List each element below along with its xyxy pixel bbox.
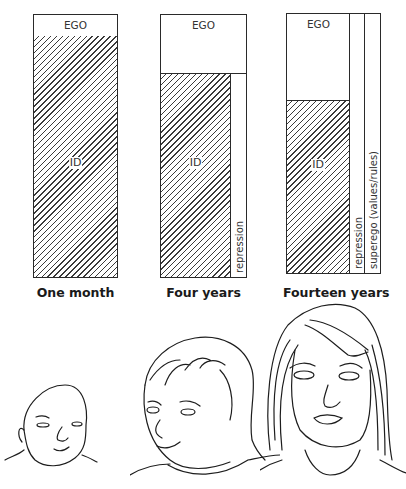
superego-column: superego (values/rules) xyxy=(364,14,381,273)
ego-label: EGO xyxy=(161,19,246,31)
ego-section: EGO xyxy=(161,15,246,74)
hair-outline-icon xyxy=(145,337,265,460)
ego-section: EGO xyxy=(34,15,117,37)
bar-four-years: EGO ID repression xyxy=(160,14,247,278)
repression-label: repression xyxy=(234,221,245,273)
bar-one-month: EGO ID xyxy=(33,14,118,278)
ego-label: EGO xyxy=(287,18,350,30)
ego-label: EGO xyxy=(34,19,117,31)
caption-one-month: One month xyxy=(33,285,118,300)
teen-face-illustration xyxy=(260,290,406,489)
id-section: ID xyxy=(161,73,231,277)
repression-column: repression xyxy=(349,14,365,273)
repression-label: repression xyxy=(352,217,363,269)
id-label: ID xyxy=(189,157,203,169)
ego-section: EGO xyxy=(287,14,350,100)
id-label: ID xyxy=(69,157,83,169)
id-section: ID xyxy=(34,36,117,277)
head-outline-icon xyxy=(24,385,87,466)
superego-label: superego (values/rules) xyxy=(368,151,379,269)
bar-fourteen-years: EGO ID repression superego (values/rules… xyxy=(286,13,381,274)
caption-four-years: Four years xyxy=(160,285,247,300)
repression-column: repression xyxy=(230,73,247,277)
child-face-illustration xyxy=(130,330,280,489)
infant-face-illustration xyxy=(0,380,120,489)
id-label: ID xyxy=(311,159,325,171)
id-section: ID xyxy=(287,100,350,273)
